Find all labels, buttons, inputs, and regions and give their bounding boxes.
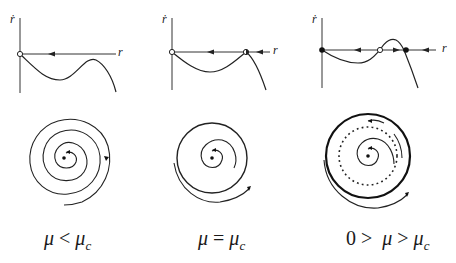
operator: >	[397, 227, 408, 249]
panel-mu-less-than-muc: ṙ r μ<μc	[0, 0, 152, 263]
mu-symbol: μ	[198, 227, 208, 249]
caption-mu-less-than-muc: μ<μc	[44, 227, 91, 254]
mu-symbol: μ	[229, 227, 239, 249]
phase-portrait-1	[0, 0, 152, 263]
spiral-arrow-icon	[104, 156, 109, 161]
caption-zero-greater-mu-greater-muc: 0 >μ>μc	[346, 227, 429, 254]
caption-mu-equals-muc: μ=μc	[198, 227, 245, 254]
subscript-c: c	[239, 238, 245, 253]
panel-zero-greater-mu-greater-muc: ṙ r 0 >μ>μc	[304, 0, 456, 263]
mu-symbol: μ	[414, 227, 424, 249]
zero-greater-prefix: 0 >	[346, 227, 372, 249]
subscript-c: c	[85, 238, 91, 253]
phase-portrait-3	[304, 0, 456, 263]
phase-portrait-2	[152, 0, 304, 263]
mu-symbol: μ	[382, 227, 392, 249]
spiral-arrow-icon	[66, 150, 70, 154]
mu-symbol: μ	[44, 227, 54, 249]
focus-point-icon	[210, 156, 214, 160]
spiral-arrow-icon	[368, 119, 372, 123]
focus-point-icon	[62, 156, 66, 160]
spiral-arrow-icon	[212, 148, 216, 152]
spiral-arrow-icon	[368, 146, 372, 150]
operator: =	[213, 227, 224, 249]
panel-mu-equals-muc: ṙ r μ=μc	[152, 0, 304, 263]
subscript-c: c	[424, 238, 430, 253]
operator: <	[59, 227, 70, 249]
focus-point-icon	[366, 154, 370, 158]
mu-symbol: μ	[75, 227, 85, 249]
